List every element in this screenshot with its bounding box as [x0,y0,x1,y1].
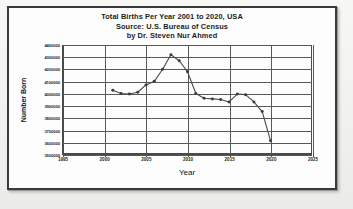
data-point [128,93,131,96]
y-tick-label: 4300000 [44,55,60,60]
series-line [113,55,271,141]
data-point [228,100,231,103]
data-point [120,92,123,95]
data-point [169,53,172,56]
data-point [111,89,114,92]
plot-area: 3500000360000037000003800000390000040000… [62,45,312,155]
chart-title-block: Total Births Per Year 2001 to 2020, USA … [9,12,335,41]
data-point [236,93,239,96]
chart-canvas: Total Births Per Year 2001 to 2020, USA … [9,8,335,188]
data-point [194,92,197,95]
y-tick-label: 3700000 [44,128,60,133]
x-tick-label: 2005 [141,157,151,162]
data-point [145,83,148,86]
data-point [219,98,222,101]
data-point [244,93,247,96]
data-point [136,91,139,94]
chart-subtitle: Source: U.S. Bureau of Census [9,22,335,32]
y-tick-label: 4000000 [44,91,60,96]
x-axis-title: Year [62,168,312,177]
data-point [186,70,189,73]
data-point [153,80,156,83]
data-point [269,139,272,142]
chart-title: Total Births Per Year 2001 to 2020, USA [9,12,335,22]
data-point [161,68,164,71]
x-tick-label: 1995 [58,157,68,162]
y-tick-label: 3800000 [44,116,60,121]
x-tick-label: 2020 [266,157,276,162]
chart-frame: Total Births Per Year 2001 to 2020, USA … [7,6,337,190]
y-tick-label: 3900000 [44,104,60,109]
x-tick-label: 2025 [308,157,318,162]
page-root: Total Births Per Year 2001 to 2020, USA … [0,0,353,209]
data-series-births [63,45,312,154]
x-tick-label: 2010 [183,157,193,162]
chart-byline: by Dr. Steven Nur Ahmed [9,31,335,41]
y-tick-label: 4100000 [44,79,60,84]
gridline-x [313,45,314,154]
x-tick-label: 2015 [225,157,235,162]
y-axis-title: Number Born [20,78,27,123]
data-point [203,97,206,100]
data-point [178,59,181,62]
y-tick-label: 4200000 [44,67,60,72]
data-point [252,100,255,103]
x-tick-label: 2000 [100,157,110,162]
data-point [261,110,264,113]
data-point [211,97,214,100]
y-tick-label: 3600000 [44,140,60,145]
y-tick-label: 4400000 [44,43,60,48]
